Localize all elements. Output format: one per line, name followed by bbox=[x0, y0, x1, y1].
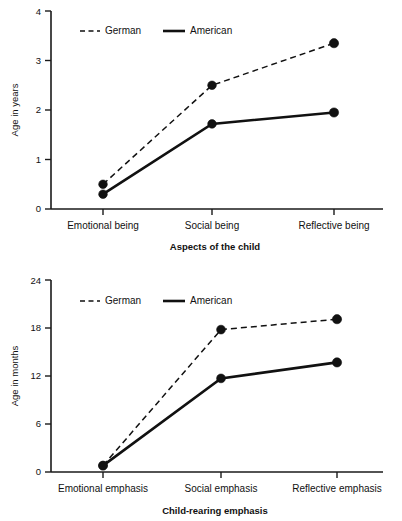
top-series-american-line bbox=[103, 113, 334, 195]
bottom-legend: German American bbox=[80, 295, 232, 306]
chart-bottom-age-in-months: 0 6 12 18 24 Age in months Emotional emp… bbox=[0, 260, 402, 521]
bottom-x-axis-title: Child-rearing emphasis bbox=[162, 505, 268, 516]
top-datapoint-german-2 bbox=[329, 39, 338, 48]
bottom-ytick-label-0: 0 bbox=[36, 466, 41, 477]
bottom-datapoint-american-0 bbox=[99, 461, 108, 470]
bottom-series-german-markers bbox=[99, 315, 342, 470]
bottom-category-label-0: Emotional emphasis bbox=[58, 483, 148, 494]
top-datapoint-german-0 bbox=[99, 180, 108, 189]
top-category-label-1: Social being bbox=[185, 220, 239, 231]
bottom-category-label-2: Reflective emphasis bbox=[292, 483, 381, 494]
bottom-ytick-label-6: 6 bbox=[36, 418, 41, 429]
bottom-series-american-markers bbox=[99, 358, 342, 470]
bottom-ytick-label-24: 24 bbox=[30, 275, 41, 286]
top-ytick-label-1: 1 bbox=[36, 154, 41, 165]
top-series-german-markers bbox=[99, 39, 339, 189]
top-x-axis-title: Aspects of the child bbox=[170, 241, 260, 252]
bottom-y-ticks: 0 6 12 18 24 bbox=[30, 275, 51, 478]
bottom-series-german-line bbox=[103, 319, 337, 465]
chart-top-age-in-years: 0 1 2 3 4 Age in years Emotional being S… bbox=[0, 0, 402, 260]
top-y-ticks: 0 1 2 3 4 bbox=[36, 6, 51, 215]
bottom-x-ticks bbox=[103, 472, 337, 478]
top-ytick-label-4: 4 bbox=[36, 6, 41, 17]
chart-top-svg: 0 1 2 3 4 Age in years Emotional being S… bbox=[0, 0, 402, 260]
bottom-y-axis-title: Age in months bbox=[9, 345, 20, 406]
bottom-datapoint-american-2 bbox=[332, 358, 341, 367]
bottom-ytick-label-18: 18 bbox=[30, 322, 41, 333]
top-category-label-0: Emotional being bbox=[67, 220, 139, 231]
top-y-axis-title: Age in years bbox=[9, 83, 20, 136]
top-datapoint-american-2 bbox=[329, 108, 338, 117]
top-ytick-label-2: 2 bbox=[36, 104, 41, 115]
top-datapoint-american-1 bbox=[208, 120, 217, 129]
bottom-legend-german-label: German bbox=[105, 295, 141, 306]
top-legend-american-label: American bbox=[190, 25, 232, 36]
bottom-datapoint-german-2 bbox=[332, 315, 341, 324]
top-category-label-2: Reflective being bbox=[298, 220, 369, 231]
top-ytick-label-0: 0 bbox=[36, 203, 41, 214]
bottom-datapoint-german-1 bbox=[217, 325, 226, 334]
top-legend: German American bbox=[80, 25, 232, 36]
bottom-legend-american-label: American bbox=[190, 295, 232, 306]
top-series-american-markers bbox=[99, 108, 339, 199]
top-legend-german-label: German bbox=[105, 25, 141, 36]
chart-bottom-svg: 0 6 12 18 24 Age in months Emotional emp… bbox=[0, 260, 402, 521]
top-x-ticks bbox=[103, 209, 334, 215]
top-series-german-line bbox=[103, 43, 334, 184]
top-datapoint-american-0 bbox=[99, 190, 108, 199]
bottom-datapoint-american-1 bbox=[217, 374, 226, 383]
top-ytick-label-3: 3 bbox=[36, 55, 41, 66]
bottom-ytick-label-12: 12 bbox=[30, 370, 41, 381]
top-datapoint-german-1 bbox=[208, 81, 217, 90]
bottom-category-label-1: Social emphasis bbox=[185, 483, 258, 494]
